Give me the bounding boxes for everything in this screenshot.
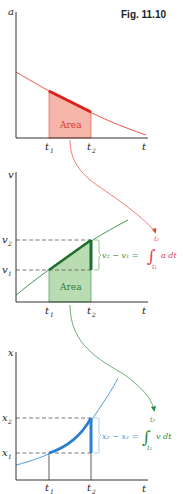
svg-text:1: 1 — [50, 311, 54, 318]
x-axis-label: t — [142, 305, 147, 316]
velocity-equation: v₂ − v₁ = ∫ t₂ t₁ a dt — [102, 235, 177, 271]
arrowhead-icon — [151, 406, 156, 412]
x-axis-label: t — [142, 141, 147, 152]
svg-text:2: 2 — [91, 147, 96, 154]
y-axis-label: x — [8, 347, 14, 358]
acceleration-panel: a t Area t 1 t 2 — [8, 6, 148, 154]
svg-text:v₂ − v₁ =: v₂ − v₁ = — [102, 251, 139, 260]
tick-t2: t 2 — [87, 305, 96, 318]
svg-text:2: 2 — [7, 240, 12, 247]
svg-text:v dt: v dt — [156, 432, 172, 441]
arrow-velocity-to-position — [70, 305, 154, 410]
tick-t2: t 2 — [87, 482, 96, 494]
position-equation: x₂ − x₁ = ∫ t₂ t₁ v dt — [102, 416, 172, 452]
svg-text:1: 1 — [8, 270, 12, 277]
tick-t2: t 2 — [87, 141, 96, 154]
svg-text:t₁: t₁ — [152, 263, 157, 271]
tick-x1: x 1 — [2, 447, 12, 460]
svg-text:1: 1 — [8, 453, 12, 460]
area-label: Area — [59, 120, 82, 130]
figure-title: Fig. 11.10 — [121, 9, 166, 20]
arrow-accel-to-velocity — [70, 140, 155, 232]
position-bracket — [94, 418, 101, 453]
position-curve — [16, 378, 118, 465]
y-axis-label: v — [8, 169, 14, 180]
svg-text:t₂: t₂ — [154, 235, 160, 243]
y-axis-label: a — [8, 6, 14, 17]
svg-text:t₁: t₁ — [147, 444, 152, 452]
velocity-area — [49, 240, 91, 302]
position-panel: x t x 2 x 1 t 1 t 2 x₂ − x₁ = ∫ t₂ t₁ v … — [2, 347, 172, 494]
figure-11-10: Fig. 11.10 a t Area t 1 t 2 — [0, 0, 183, 494]
svg-text:2: 2 — [91, 311, 96, 318]
tick-t1: t 1 — [45, 141, 54, 154]
svg-text:1: 1 — [50, 488, 54, 494]
svg-text:t₂: t₂ — [150, 416, 156, 424]
svg-text:a dt: a dt — [161, 251, 177, 260]
tick-x2: x 2 — [2, 412, 12, 425]
tick-v1: v 1 — [2, 264, 12, 277]
arrowhead-icon — [152, 228, 157, 234]
tick-t1: t 1 — [45, 482, 54, 494]
velocity-panel: v t Area v 2 v 1 t 1 t 2 v₂ − v₁ = ∫ t₂ … — [2, 169, 177, 318]
acceleration-area — [49, 91, 91, 138]
area-label: Area — [59, 282, 82, 292]
tick-v2: v 2 — [2, 234, 12, 247]
position-highlight — [49, 418, 91, 453]
svg-text:2: 2 — [91, 488, 96, 494]
tick-t1: t 1 — [45, 305, 54, 318]
svg-text:x₂ − x₁ =: x₂ − x₁ = — [102, 432, 138, 441]
svg-text:1: 1 — [50, 147, 54, 154]
x-axis-label: t — [142, 483, 147, 494]
svg-text:2: 2 — [7, 418, 12, 425]
velocity-bracket — [94, 240, 101, 270]
